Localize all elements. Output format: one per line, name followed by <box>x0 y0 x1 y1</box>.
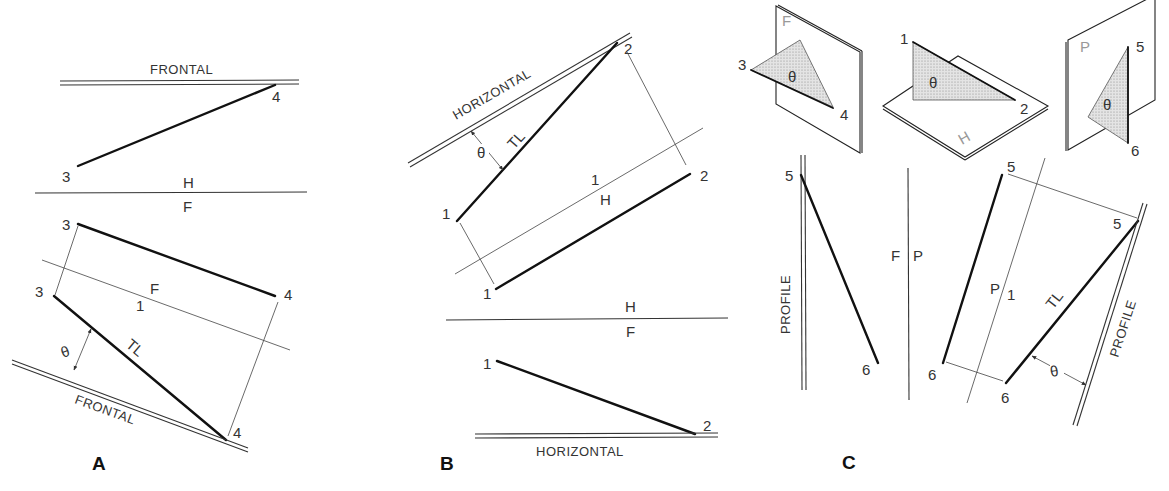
point-2-front: 2 <box>703 417 711 434</box>
fold-line-p1 <box>967 158 1045 403</box>
frontal-plane-line-top <box>60 80 299 85</box>
fold-label-h-b2: H <box>625 298 636 315</box>
point-1-top: 1 <box>483 285 491 302</box>
fold-line-h1-b <box>455 128 703 274</box>
projector-2 <box>627 52 686 165</box>
point-6-side: 6 <box>928 366 936 383</box>
descriptive-geometry-figure: FRONTAL 4 3 H F 3 4 F 1 3 4 TL FRONTAL <box>0 0 1169 491</box>
plane-label-h: H <box>955 127 973 147</box>
fold-label-f-aux: F <box>150 280 159 297</box>
fold-label-f-b2: F <box>626 323 635 340</box>
frontal-label-aux: FRONTAL <box>73 392 138 428</box>
fold-label-f-c: F <box>891 247 900 264</box>
projector-4 <box>228 302 278 436</box>
point-3-front: 3 <box>62 216 70 233</box>
pictorial-point-3: 3 <box>738 56 746 73</box>
fold-label-f: F <box>183 198 192 215</box>
point-4-front: 4 <box>284 286 292 303</box>
profile-plane-line-left <box>801 155 806 390</box>
fold-label-h-b: H <box>600 191 611 208</box>
tl-label-c: TL <box>1042 288 1066 312</box>
pictorial-theta-p: θ <box>1103 96 1111 113</box>
fold-line-fp <box>908 168 909 400</box>
panel-c: PROFILE 5 6 F P 5 6 P 1 5 6 TL PROFILE <box>778 155 1147 473</box>
point-4-aux: 4 <box>233 424 241 441</box>
point-6-aux: 6 <box>1001 389 1009 406</box>
projector-5 <box>1008 174 1137 218</box>
fold-label-p-c: P <box>913 247 923 264</box>
fold-label-1-aux: 1 <box>136 297 144 314</box>
fold-label-p-c2: P <box>990 280 1000 297</box>
point-5-aux: 5 <box>1113 215 1121 232</box>
frontal-plane-line-aux <box>12 360 248 452</box>
pictorial-point-4: 4 <box>840 106 848 123</box>
tl-label-b: TL <box>504 128 528 152</box>
panel-label-c: C <box>842 452 856 473</box>
line-56-front-view <box>801 175 878 363</box>
point-1-aux: 1 <box>442 205 450 222</box>
fold-label-1-c2: 1 <box>1007 286 1015 303</box>
fold-line-hf-b <box>446 318 728 320</box>
pictorial-point-6: 6 <box>1131 142 1139 159</box>
profile-label-left: PROFILE <box>778 275 793 334</box>
line-12-top-view <box>496 174 690 289</box>
point-1-front: 1 <box>483 355 491 372</box>
point-6-front: 6 <box>862 361 870 378</box>
plane-label-f: F <box>782 12 791 29</box>
pictorial-point-2: 2 <box>1020 100 1028 117</box>
line-34-front-view <box>78 224 275 296</box>
pictorial-profile-plane: P 5 6 θ <box>1066 0 1155 159</box>
pictorial-theta-f: θ <box>788 68 796 85</box>
line-12-true-length <box>457 43 617 221</box>
point-3-top: 3 <box>62 168 70 185</box>
plane-label-p: P <box>1080 38 1090 55</box>
profile-plane-line-aux <box>1073 203 1147 426</box>
fold-line-f1-a <box>42 260 290 350</box>
line-12-front-view <box>497 361 695 434</box>
pictorial-horizontal-plane: 1 2 θ H <box>883 30 1048 160</box>
projector-1 <box>460 223 494 284</box>
angle-dimension-a <box>74 329 91 370</box>
panel-a: FRONTAL 4 3 H F 3 4 F 1 3 4 TL FRONTAL <box>12 62 307 474</box>
point-2-top: 2 <box>700 167 708 184</box>
horizontal-label-bottom: HORIZONTAL <box>536 444 624 459</box>
pictorial-point-1: 1 <box>900 30 908 47</box>
line-34-top-view <box>78 85 275 166</box>
panel-b: HORIZONTAL 1 2 TL θ 1 H 1 2 H F 1 2 <box>408 33 728 474</box>
point-5-side: 5 <box>1007 158 1015 175</box>
point-3-aux: 3 <box>35 283 43 300</box>
frontal-label-top: FRONTAL <box>150 62 213 77</box>
panel-label-a: A <box>92 453 106 474</box>
panel-label-b: B <box>440 453 454 474</box>
horizontal-plane-line-bottom <box>475 433 718 438</box>
line-56-side-view <box>943 175 1002 363</box>
point-4-top: 4 <box>272 88 280 105</box>
fold-line-hf-a <box>35 192 307 193</box>
fold-label-h: H <box>183 174 194 191</box>
pictorial-point-5: 5 <box>1136 38 1144 55</box>
projector-3 <box>55 226 78 295</box>
pictorial-theta-h: θ <box>929 74 937 91</box>
pictorial-frontal-plane: F θ 4 3 <box>738 5 862 153</box>
point-5-front: 5 <box>785 167 793 184</box>
fold-label-1-b: 1 <box>591 171 599 188</box>
theta-label-b: θ <box>477 144 485 161</box>
profile-label-aux: PROFILE <box>1107 298 1140 359</box>
